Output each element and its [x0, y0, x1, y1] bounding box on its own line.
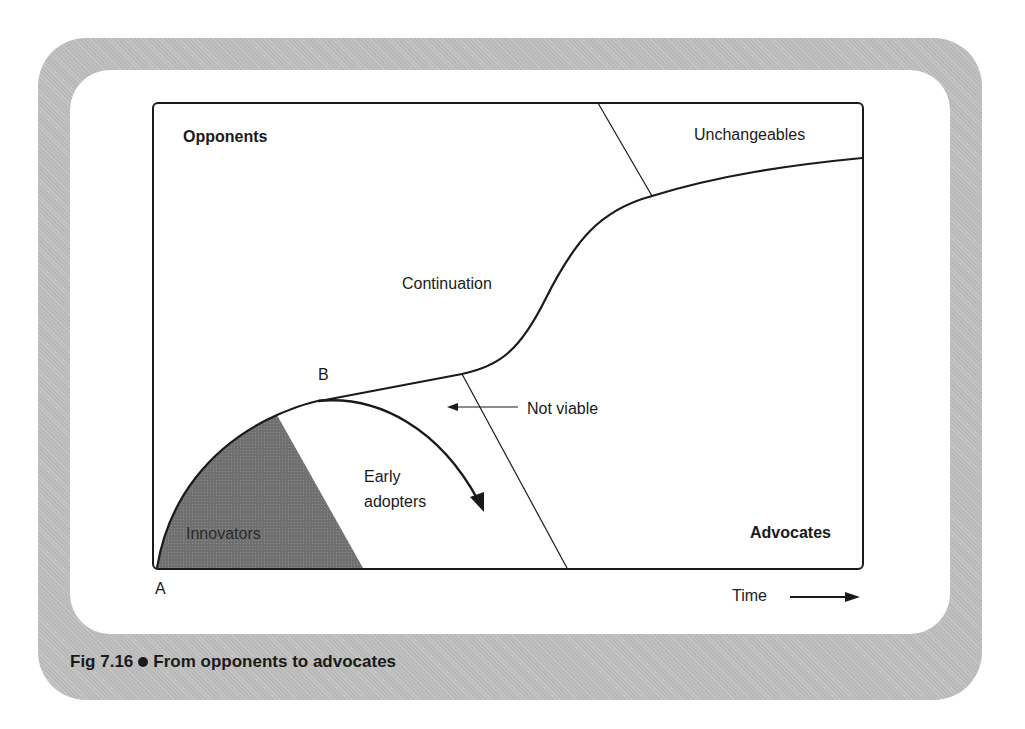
point-b-label: B — [318, 366, 329, 384]
opponents-label: Opponents — [183, 128, 267, 146]
early-adopters-label-line2: adopters — [364, 493, 426, 511]
figure-title: From opponents to advocates — [153, 652, 396, 671]
unchangeables-label: Unchangeables — [694, 126, 805, 144]
not-viable-arrowhead — [447, 403, 458, 411]
continuation-label: Continuation — [402, 275, 492, 293]
time-axis-label: Time — [732, 587, 767, 605]
unchangeables-divider — [598, 103, 652, 196]
innovators-label: Innovators — [186, 525, 261, 543]
early-adopters-label-line1: Early — [364, 468, 400, 486]
advocates-label: Advocates — [750, 524, 831, 542]
early-adopters-arrowhead — [470, 492, 484, 512]
innovators-region — [157, 415, 363, 568]
figure-caption: Fig 7.16From opponents to advocates — [70, 652, 396, 672]
point-a-label: A — [155, 580, 166, 598]
not-viable-label: Not viable — [527, 400, 598, 418]
adoption-diagram — [0, 0, 1025, 729]
time-arrowhead — [845, 592, 860, 602]
figure-number: Fig 7.16 — [70, 652, 133, 671]
bullet-icon — [138, 657, 148, 667]
